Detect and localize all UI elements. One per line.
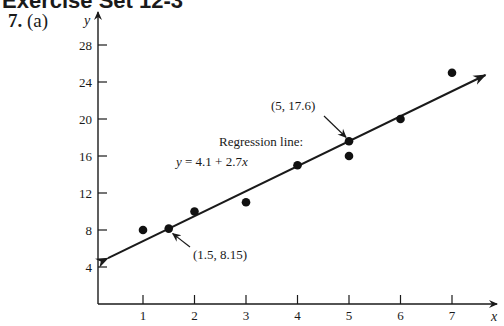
- point-label: (1.5, 8.15): [193, 247, 247, 262]
- y-tick-label: 12: [79, 186, 92, 201]
- regression-label: Regression line:: [219, 134, 303, 149]
- axes: yx: [82, 12, 498, 324]
- annotation-arrow: [324, 116, 346, 137]
- annotation-arrow: [173, 234, 190, 247]
- x-tick-label: 1: [140, 308, 147, 323]
- y-tick-label: 16: [79, 149, 93, 164]
- data-point: [242, 198, 251, 207]
- regression-equation: y = 4.1 + 2.7x: [174, 154, 248, 169]
- data-point: [396, 115, 405, 124]
- data-points: [139, 68, 457, 234]
- y-tick-label: 8: [86, 223, 93, 238]
- annotations: (1.5, 8.15)(5, 17.6)Regression line:y = …: [173, 98, 346, 262]
- x-tick-label: 3: [243, 308, 250, 323]
- data-point: [448, 68, 457, 77]
- y-tick-label: 4: [86, 260, 93, 275]
- x-tick-label: 5: [346, 308, 353, 323]
- regression-marked-point: [345, 137, 354, 146]
- x-tick-label: 6: [397, 308, 404, 323]
- data-point: [190, 207, 199, 216]
- y-tick-label: 24: [79, 75, 93, 90]
- y-tick-label: 20: [79, 112, 92, 127]
- data-point: [293, 161, 302, 170]
- x-axis-label: x: [490, 309, 498, 324]
- y-axis-label: y: [82, 13, 91, 28]
- data-point: [139, 226, 148, 235]
- point-label: (5, 17.6): [271, 98, 315, 113]
- data-point: [345, 152, 354, 161]
- x-tick-label: 7: [449, 308, 456, 323]
- y-tick-label: 28: [79, 38, 92, 53]
- x-tick-label: 2: [191, 308, 198, 323]
- scatter-chart: yx 4812162024281234567 (1.5, 8.15)(5, 17…: [0, 0, 504, 326]
- x-tick-label: 4: [294, 308, 301, 323]
- regression-marked-point: [164, 224, 173, 233]
